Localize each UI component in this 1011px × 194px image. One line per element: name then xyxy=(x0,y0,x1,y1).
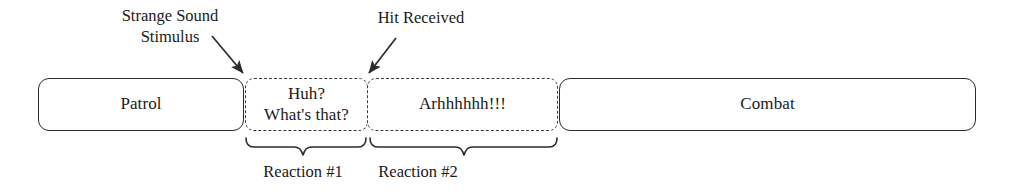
state-label-combat: Combat xyxy=(740,94,794,114)
state-label-reaction2: Arhhhhhh!!! xyxy=(419,94,506,114)
reaction-timeline-diagram: Patrol Huh? What's that? Arhhhhhh!!! Com… xyxy=(0,0,1011,194)
state-box-reaction2: Arhhhhhh!!! xyxy=(367,78,558,131)
state-box-combat: Combat xyxy=(559,78,976,131)
state-box-reaction1: Huh? What's that? xyxy=(245,78,368,131)
brace-reaction1 xyxy=(246,138,366,155)
state-label-reaction1: Huh? What's that? xyxy=(264,84,349,124)
annotation-label-hit: Hit Received xyxy=(356,8,486,29)
state-label-patrol: Patrol xyxy=(120,94,161,114)
annotation-arrow-hit xyxy=(369,38,396,73)
annotation-label-stimulus: Strange Sound Stimulus xyxy=(96,6,244,47)
state-box-patrol: Patrol xyxy=(38,78,244,131)
brace-label-reaction2: Reaction #2 xyxy=(348,162,488,182)
brace-reaction2 xyxy=(370,138,557,155)
